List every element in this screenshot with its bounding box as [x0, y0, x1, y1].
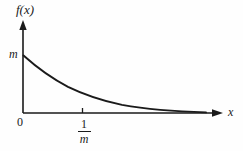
y-axis-label: f(x) [16, 3, 34, 16]
plot-canvas [0, 0, 243, 151]
exponential-decay-curve [24, 56, 207, 113]
exponential-decay-figure: f(x) x m 0 1 m [0, 0, 243, 151]
y-intercept-label: m [9, 48, 18, 60]
x-axis-label: x [228, 106, 233, 118]
y-axis [19, 20, 26, 113]
x-tick-label-one-over-m: 1 m [74, 118, 94, 145]
x-axis-arrowhead-icon [212, 109, 223, 117]
fraction-numerator: 1 [74, 118, 94, 131]
y-axis-arrowhead-icon [19, 20, 26, 30]
fraction-denominator: m [74, 132, 94, 145]
origin-label: 0 [17, 116, 23, 128]
x-axis [23, 109, 223, 117]
